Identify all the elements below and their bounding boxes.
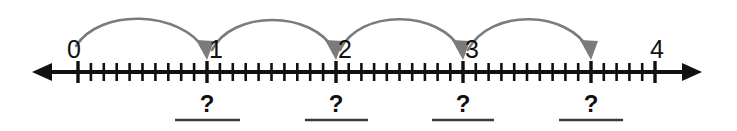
answer-blank-question-mark: ? — [456, 90, 471, 117]
axis-arrowhead-right — [682, 63, 702, 81]
jump-arc-path — [212, 20, 334, 50]
answer-blank-2[interactable]: ? — [305, 90, 368, 120]
answer-blank-question-mark: ? — [329, 90, 344, 117]
jump-arrowhead — [580, 40, 598, 60]
axis-group — [32, 63, 702, 81]
answer-blank-3[interactable]: ? — [432, 90, 494, 120]
answer-blank-4[interactable]: ? — [559, 90, 623, 120]
axis-label-3: 3 — [465, 35, 479, 63]
jump-arc-group — [76, 19, 598, 60]
axis-arrowhead-left — [32, 63, 52, 81]
jump-arc-path — [468, 19, 589, 50]
answer-blank-1[interactable]: ? — [175, 90, 240, 120]
jump-arc-path — [340, 19, 461, 50]
jump-arc-1-to-2 — [212, 20, 343, 60]
answer-blank-group: ? ? ? ? — [175, 90, 623, 120]
axis-label-2: 2 — [338, 35, 352, 63]
axis-label-1: 1 — [209, 35, 223, 63]
jump-arc-path — [76, 19, 205, 50]
number-line-figure: 0 1 2 3 4 ? ? ? ? — [0, 0, 737, 131]
number-line-canvas: 0 1 2 3 4 ? ? ? ? — [0, 0, 737, 131]
jump-arc-2-to-3 — [340, 19, 470, 60]
axis-label-0: 0 — [67, 35, 81, 63]
axis-label-group: 0 1 2 3 4 — [67, 35, 664, 63]
jump-arc-0-to-1 — [76, 19, 214, 60]
answer-blank-question-mark: ? — [200, 90, 215, 117]
jump-arc-3-to-4 — [468, 19, 598, 60]
answer-blank-question-mark: ? — [584, 90, 599, 117]
axis-label-4: 4 — [650, 35, 664, 63]
